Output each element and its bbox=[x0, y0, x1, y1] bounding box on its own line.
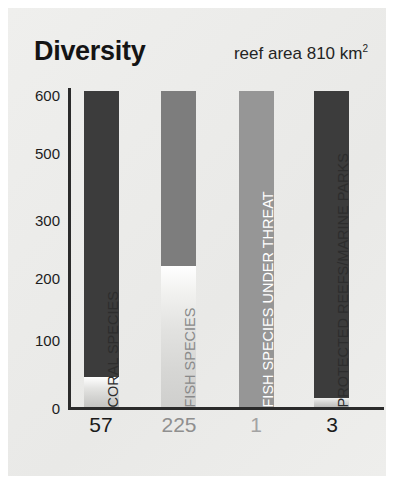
bar-label-fish-species-under-threat: FISH SPECIES UNDER THREAT bbox=[261, 191, 276, 407]
reef-area-superscript: 2 bbox=[362, 43, 368, 54]
y-axis-line bbox=[68, 88, 71, 410]
y-axis-tick-labels: 600 500 300 200 100 0 bbox=[12, 88, 60, 410]
y-tick-200: 200 bbox=[16, 271, 60, 286]
reef-area-text: reef area 810 km bbox=[234, 44, 363, 63]
reef-area-annotation: reef area 810 km2 bbox=[234, 45, 368, 62]
bar-fish-species[interactable]: FISH SPECIES bbox=[161, 91, 196, 407]
bar-label-protected-reefs-marine-parks: PROTECTED REEFS/MARINE PARKS bbox=[336, 153, 351, 407]
x-axis-tick-labels: 57 225 1 3 bbox=[68, 414, 386, 448]
chart-page: Diversity reef area 810 km2 600 500 300 … bbox=[0, 0, 394, 484]
bar-fish-species-under-threat[interactable]: FISH SPECIES UNDER THREAT bbox=[239, 91, 274, 407]
y-tick-0: 0 bbox=[16, 401, 60, 416]
bar-fish-species-upper-segment bbox=[161, 91, 196, 266]
y-tick-500: 500 bbox=[16, 146, 60, 161]
y-tick-300: 300 bbox=[16, 213, 60, 228]
bar-protected-reefs-marine-parks[interactable]: PROTECTED REEFS/MARINE PARKS bbox=[314, 91, 349, 407]
x-tick-fish-species: 225 bbox=[144, 414, 214, 435]
x-tick-fish-species-under-threat: 1 bbox=[221, 414, 291, 435]
bar-label-fish-species: FISH SPECIES bbox=[183, 307, 198, 407]
bar-coral-species[interactable]: CORAL SPECIES bbox=[84, 91, 119, 407]
plot-area: CORAL SPECIES FISH SPECIES FISH SPECIES … bbox=[68, 88, 386, 410]
y-tick-600: 600 bbox=[16, 88, 60, 103]
x-tick-coral-species: 57 bbox=[66, 414, 136, 435]
y-tick-100: 100 bbox=[16, 333, 60, 348]
chart-panel: Diversity reef area 810 km2 600 500 300 … bbox=[8, 8, 386, 476]
bar-label-coral-species: CORAL SPECIES bbox=[106, 291, 121, 407]
x-tick-protected-reefs: 3 bbox=[297, 414, 367, 435]
page-title: Diversity bbox=[34, 38, 145, 65]
